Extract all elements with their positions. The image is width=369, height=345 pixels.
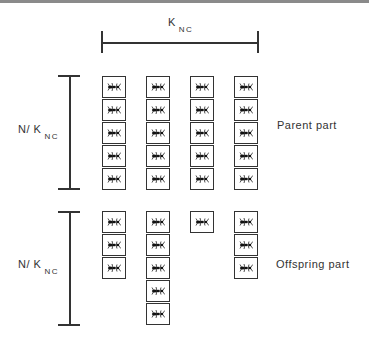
ant-icon <box>151 128 165 138</box>
offspring-bracket-line <box>69 211 71 325</box>
label-subscript: NC <box>179 25 194 34</box>
parent-cell <box>146 99 170 121</box>
ant-icon <box>151 174 165 184</box>
ant-icon <box>151 286 165 296</box>
ant-icon <box>151 217 165 227</box>
ant-icon <box>107 82 121 92</box>
ant-icon <box>195 217 209 227</box>
top-border <box>0 0 369 3</box>
parent-cell <box>234 168 258 190</box>
top-dimension-tick-left <box>101 31 103 53</box>
ant-icon <box>151 263 165 273</box>
ant-icon <box>107 240 121 250</box>
ant-icon <box>195 174 209 184</box>
top-dimension-label: KNC <box>168 16 193 34</box>
parent-dimension-label: N/ KNC <box>18 123 59 141</box>
ant-icon <box>107 105 121 115</box>
parent-cell <box>146 168 170 190</box>
offspring-cell <box>234 234 258 256</box>
ant-icon <box>107 263 121 273</box>
parent-cell <box>234 99 258 121</box>
ant-icon <box>151 105 165 115</box>
ant-icon <box>195 105 209 115</box>
parent-cell <box>190 99 214 121</box>
parent-cell <box>190 168 214 190</box>
top-dimension-line <box>102 42 258 44</box>
offspring-cell <box>146 211 170 233</box>
label-subscript: NC <box>44 267 59 276</box>
offspring-part-label: Offspring part <box>276 258 349 270</box>
ant-icon <box>239 174 253 184</box>
parent-cell <box>102 168 126 190</box>
ant-icon <box>195 82 209 92</box>
offspring-cell <box>146 280 170 302</box>
offspring-cell <box>190 211 214 233</box>
ant-icon <box>151 82 165 92</box>
offspring-cell <box>234 211 258 233</box>
ant-icon <box>239 240 253 250</box>
ant-icon <box>239 82 253 92</box>
parent-part-label: Parent part <box>277 119 337 131</box>
parent-cell <box>102 99 126 121</box>
parent-cell <box>234 76 258 98</box>
parent-cell <box>146 122 170 144</box>
ant-icon <box>151 309 165 319</box>
ant-icon <box>195 151 209 161</box>
ant-icon <box>151 240 165 250</box>
offspring-cell <box>102 234 126 256</box>
parent-cell <box>102 122 126 144</box>
offspring-cell <box>146 234 170 256</box>
parent-cell <box>190 76 214 98</box>
parent-cell <box>146 145 170 167</box>
offspring-cell <box>146 303 170 325</box>
parent-cell <box>102 76 126 98</box>
parent-cell <box>190 122 214 144</box>
parent-cell <box>146 76 170 98</box>
offspring-cell <box>102 211 126 233</box>
ant-icon <box>107 217 121 227</box>
parent-cell <box>234 145 258 167</box>
ant-icon <box>107 174 121 184</box>
ant-icon <box>151 151 165 161</box>
ant-icon <box>239 263 253 273</box>
offspring-cell <box>234 257 258 279</box>
top-dimension-tick-right <box>257 31 259 53</box>
offspring-bracket-bottom <box>58 324 80 326</box>
offspring-cell <box>102 257 126 279</box>
label-main: N/ K <box>18 258 41 270</box>
offspring-dimension-label: N/ KNC <box>18 258 59 276</box>
ant-icon <box>239 128 253 138</box>
label-main: K <box>168 16 176 28</box>
ant-icon <box>107 128 121 138</box>
ant-icon <box>239 105 253 115</box>
parent-cell <box>102 145 126 167</box>
parent-bracket-line <box>69 75 71 190</box>
parent-cell <box>190 145 214 167</box>
ant-icon <box>239 151 253 161</box>
label-main: N/ K <box>18 123 41 135</box>
ant-icon <box>195 128 209 138</box>
label-subscript: NC <box>44 132 59 141</box>
offspring-cell <box>146 257 170 279</box>
ant-icon <box>239 217 253 227</box>
ant-icon <box>107 151 121 161</box>
parent-bracket-bottom <box>58 188 80 190</box>
parent-cell <box>234 122 258 144</box>
